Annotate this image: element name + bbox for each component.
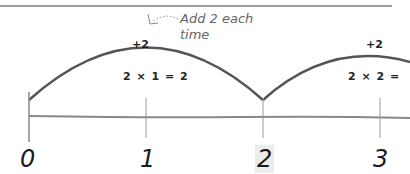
arrowhead-icon xyxy=(148,14,158,24)
tick-label-2: 2 xyxy=(255,145,274,173)
pointer-arrow-icon xyxy=(152,16,178,22)
number-line-axis xyxy=(29,116,410,118)
tick-label-1: 1 xyxy=(140,145,155,173)
jump-1-equation: 2 × 1 = 2 xyxy=(123,70,189,83)
tick-label-3: 3 xyxy=(373,145,388,173)
jump-2-equation: 2 × 2 = xyxy=(348,70,400,83)
tick-label-0: 0 xyxy=(20,145,35,173)
jump-1-label: +2 xyxy=(132,38,149,51)
annotation-line2: time xyxy=(180,27,209,42)
annotation-line1: Add 2 each xyxy=(180,11,253,26)
jump-2-label: +2 xyxy=(366,38,383,51)
